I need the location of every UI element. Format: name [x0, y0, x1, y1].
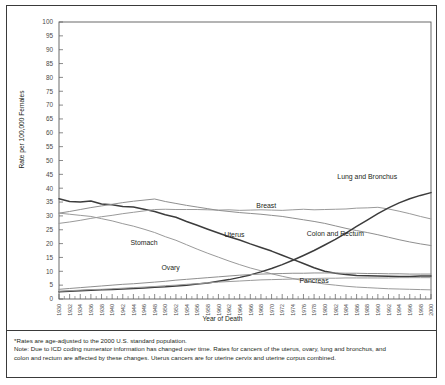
y-tick-label: 45 — [46, 171, 54, 178]
y-tick-label: 10 — [46, 268, 54, 275]
y-tick-label: 60 — [46, 129, 54, 136]
footnote-icd-line2: colon and rectum are affected by these c… — [14, 354, 429, 362]
y-tick-label: 40 — [46, 185, 54, 192]
chart-area: 0510152025303540455055606570758085909510… — [7, 6, 436, 332]
series-label-pancreas: Pancreas — [300, 277, 330, 284]
y-tick-label: 25 — [46, 226, 54, 233]
series-label-stomach: Stomach — [130, 239, 157, 246]
y-tick-label: 35 — [46, 198, 54, 205]
y-axis-title: Rate per 100,000 Females — [18, 55, 25, 205]
y-tick-label: 65 — [46, 115, 54, 122]
series-label-breast: Breast — [256, 202, 276, 209]
series-label-uterus: Uterus — [224, 231, 245, 238]
y-tick-label: 70 — [46, 101, 54, 108]
footnote-icd-line1: Note: Due to ICD coding numerator inform… — [14, 345, 429, 353]
y-tick-label: 20 — [46, 240, 54, 247]
plot-wrapper: 0510152025303540455055606570758085909510… — [7, 6, 438, 332]
y-tick-label: 30 — [46, 212, 54, 219]
x-axis-title: Year of Death — [7, 315, 438, 322]
y-tick-label: 95 — [46, 32, 54, 39]
y-tick-label: 50 — [46, 157, 54, 164]
footnotes-box: *Rates are age-adjusted to the 2000 U.S.… — [7, 330, 436, 377]
y-tick-label: 55 — [46, 143, 54, 150]
y-tick-label: 90 — [46, 46, 54, 53]
y-tick-label: 80 — [46, 74, 54, 81]
y-tick-label: 100 — [42, 18, 53, 25]
series-label-ovary: Ovary — [161, 264, 180, 272]
series-label-colon-and-rectum: Colon and Rectum — [307, 230, 364, 237]
y-tick-label: 5 — [49, 281, 53, 288]
y-tick-label: 85 — [46, 60, 54, 67]
y-tick-label: 75 — [46, 88, 54, 95]
y-tick-label: 0 — [49, 295, 53, 302]
series-label-lung-and-bronchus: Lung and Bronchus — [337, 173, 397, 181]
plot-border — [59, 22, 431, 299]
footnote-rates: *Rates are age-adjusted to the 2000 U.S.… — [14, 337, 429, 345]
figure-frame: 0510152025303540455055606570758085909510… — [6, 5, 437, 378]
y-tick-label: 15 — [46, 254, 54, 261]
line-chart-svg: 0510152025303540455055606570758085909510… — [7, 6, 438, 332]
